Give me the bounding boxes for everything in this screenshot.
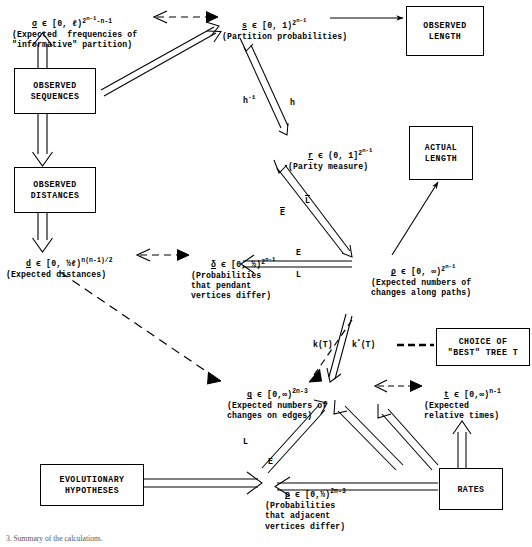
node-s-domain: ϵ [0, 1) (247, 21, 292, 30)
node-p: p ϵ [0,½)2n-3 (Probabilities that adjace… (265, 480, 346, 532)
edge-label-E-p: E (268, 457, 273, 467)
box-evolutionary-hypotheses[interactable]: EVOLUTIONARY HYPOTHESES (40, 464, 144, 506)
node-delta-exponent: 2n-1 (261, 259, 275, 266)
edge-label-h: h (290, 98, 295, 108)
node-p-exponent: 2n-3 (330, 489, 346, 496)
box-observed-length[interactable]: OBSERVED LENGTH (406, 6, 484, 56)
edge-label-E-bar: E (280, 208, 285, 218)
node-q-exponent: 2n-3 (292, 389, 308, 396)
node-sigma: σ ϵ [0, ℓ)2n-1-n-1 (Expected frequencies… (12, 8, 137, 50)
box-observed-distances-line1: OBSERVED (33, 179, 76, 190)
node-sigma-desc2: "informative" partition) (12, 40, 132, 49)
box-choice-line1: CHOICE OF (459, 336, 508, 347)
edge-label-k-tree: k(T) (313, 340, 333, 350)
box-observed-distances-line2: DISTANCES (31, 190, 80, 201)
box-actual-length[interactable]: ACTUAL LENGTH (409, 126, 473, 180)
node-delta-desc3: vertices differ) (191, 291, 271, 300)
node-d-domain: ϵ [0, ½ℓ) (31, 259, 81, 268)
node-t-domain: ϵ [0,∞) (449, 390, 489, 399)
node-q-domain: ϵ [0,∞) (252, 390, 292, 399)
node-t-desc1: (Expected (424, 401, 469, 410)
edge-hypotheses-to-p (142, 472, 262, 494)
node-d: d ϵ [0, ½ℓ)n(n-1)/2 (Expected distances) (6, 249, 113, 280)
edge-t-to-q (334, 400, 403, 470)
node-p-desc2: that adjacent (265, 511, 330, 520)
node-rho-desc2: changes along paths) (371, 288, 471, 297)
node-sigma-exponent: 2n-1-n-1 (82, 18, 112, 25)
box-observed-distances[interactable]: OBSERVED DISTANCES (14, 167, 96, 213)
edge-ktree-dashed (309, 320, 352, 382)
node-delta: δ ϵ [0, ½)2n-1 (Probabilities that penda… (191, 249, 276, 302)
edge-rates-to-t (453, 421, 471, 469)
edge-distances-to-d (33, 211, 53, 252)
box-observed-length-line1: OBSERVED (423, 20, 466, 31)
node-sigma-desc1: (Expected frequencies of (12, 30, 137, 39)
node-d-exponent: n(n-1)/2 (81, 258, 112, 265)
box-observed-length-line2: LENGTH (429, 31, 461, 42)
edge-sequences-to-distances (33, 111, 53, 166)
box-rates-line1: RATES (457, 484, 484, 495)
node-delta-desc2: that pendant (191, 281, 251, 290)
node-q-desc1: (Expected numbers of (227, 401, 327, 410)
box-choice-line2: "BEST" TREE T (448, 347, 518, 358)
node-t-desc2: relative times) (424, 411, 499, 420)
edge-label-h-inverse: h-1 (243, 96, 255, 106)
node-q-desc2: changes on edges) (227, 411, 312, 420)
node-t: t ϵ [0,∞)n-1 (Expected relative times) (424, 380, 501, 422)
node-p-desc1: (Probabilities (265, 501, 335, 510)
node-r-domain: ϵ (0, 1] (313, 151, 358, 160)
edge-sigma-s-dashed (154, 11, 218, 23)
node-rho: ρ ϵ [0, ∞)2n-1 (Expected numbers of chan… (371, 256, 471, 298)
node-r: r ϵ (0, 1]2n-1 (Parity measure) (288, 140, 373, 172)
node-r-exponent: 2n-1 (358, 150, 372, 157)
box-actual-length-line2: LENGTH (425, 153, 457, 164)
box-actual-length-line1: ACTUAL (425, 142, 457, 153)
node-rho-desc1: (Expected numbers of (371, 278, 471, 287)
box-hypotheses-line2: HYPOTHESES (65, 485, 119, 496)
node-s-desc1: (Partition probabilities) (222, 32, 347, 41)
edge-label-L-bar: L (305, 196, 310, 206)
edge-q-t-dashed (375, 380, 422, 392)
edge-label-k-star-tree: k*(T) (352, 340, 375, 350)
edge-s-r-h (240, 38, 288, 135)
node-q: q ϵ [0,∞)2n-3 (Expected numbers of chang… (227, 380, 327, 422)
node-s-exponent: 2n-1 (292, 20, 306, 27)
node-delta-domain: ϵ [0, ½) (216, 260, 261, 269)
node-p-domain: ϵ [0,½) (290, 490, 330, 499)
node-t-exponent: n-1 (489, 389, 501, 396)
box-observed-sequences[interactable]: OBSERVED SEQUENCES (14, 68, 96, 114)
node-d-desc1: (Expected distances) (6, 270, 106, 279)
box-choice-of-best-tree[interactable]: CHOICE OF "BEST" TREE T (436, 328, 530, 366)
edge-label-L-p: L (243, 437, 248, 447)
box-observed-sequences-line2: SEQUENCES (31, 91, 80, 102)
edge-rho-to-actual-length (392, 182, 438, 255)
box-observed-sequences-line1: OBSERVED (33, 80, 76, 91)
node-s: s ϵ [0, 1)2n-1 (Partition probabilities) (222, 10, 347, 42)
edge-label-E-rho: E (296, 248, 301, 258)
box-hypotheses-line1: EVOLUTIONARY (60, 474, 125, 485)
node-delta-desc1: (Probabilities (191, 271, 261, 280)
edge-d-delta-dashed (137, 249, 189, 261)
node-sigma-domain: ϵ [0, ℓ) (37, 19, 82, 28)
box-rates[interactable]: RATES (439, 468, 503, 510)
node-r-desc1: (Parity measure) (288, 162, 368, 171)
node-p-desc3: vertices differ) (265, 522, 345, 531)
node-rho-domain: ϵ [0, ∞) (396, 267, 441, 276)
edge-label-L-rho: L (296, 270, 301, 280)
figure-caption: 3. Summary of the calculations. (6, 534, 103, 543)
edge-r-rho-EL (274, 160, 352, 257)
node-rho-exponent: 2n-1 (441, 266, 455, 273)
diagram-canvas: s (dashed double headed) --> delta (dash… (0, 0, 532, 547)
